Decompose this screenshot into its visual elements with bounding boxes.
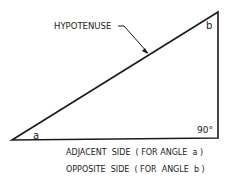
triangle <box>12 12 218 140</box>
right-angle-label: 90° <box>197 125 213 135</box>
arrow-head-icon <box>142 48 148 54</box>
right-triangle-diagram: HYPOTENUSE a b 90° ADJACENT SIDE ( FOR A… <box>0 0 236 183</box>
opposite-side-label: OPPOSITE SIDE ( FOR ANGLE b ) <box>66 165 205 174</box>
angle-b-label: b <box>206 20 212 31</box>
angle-a-label: a <box>33 130 39 141</box>
hypotenuse-label: HYPOTENUSE <box>54 21 111 31</box>
adjacent-side-label: ADJACENT SIDE ( FOR ANGLE a ) <box>66 148 203 157</box>
